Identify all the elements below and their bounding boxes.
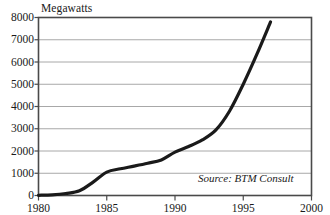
data-line-series xyxy=(39,22,271,195)
x-tick-label: 1995 xyxy=(223,202,263,214)
y-tick-label: 8000 xyxy=(0,11,34,23)
x-tick-label: 1980 xyxy=(19,202,59,214)
y-tick-label: 2000 xyxy=(0,145,34,157)
y-tick-label: 3000 xyxy=(0,122,34,134)
y-tick-label: 7000 xyxy=(0,33,34,45)
x-tick-label: 1985 xyxy=(87,202,127,214)
source-annotation: Source: BTM Consult xyxy=(198,172,294,185)
chart-container: Megawatts 800070006000500040003000200010… xyxy=(0,0,330,215)
y-tick-label: 6000 xyxy=(0,56,34,68)
y-tick-label: 1000 xyxy=(0,167,34,179)
y-tick-label: 0 xyxy=(0,189,34,201)
x-tick-label: 1990 xyxy=(155,202,195,214)
x-tick-label: 2000 xyxy=(292,202,330,214)
y-tick-label: 5000 xyxy=(0,78,34,90)
y-tick-label: 4000 xyxy=(0,100,34,112)
